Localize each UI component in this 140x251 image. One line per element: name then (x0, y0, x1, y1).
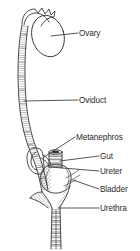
label-metanephros: Metanephros (76, 133, 123, 142)
ostium-infundibulum (22, 8, 55, 26)
label-ovary: Ovary (79, 29, 100, 38)
urogenital-diagram (0, 0, 140, 251)
label-oviduct: Oviduct (79, 96, 106, 105)
oviduct-leader (24, 100, 78, 101)
bladder-sac (41, 164, 80, 193)
label-bladder: Bladder (100, 185, 128, 194)
gut-leader (60, 156, 99, 161)
leader-lines (24, 33, 99, 208)
anatomy-figure: Ovary Oviduct Metanephros Gut Ureter Bla… (0, 0, 140, 251)
label-ureter: Ureter (100, 167, 122, 176)
bladder-leader (73, 180, 99, 189)
label-gut: Gut (100, 152, 113, 161)
label-urethra: Urethra (100, 204, 127, 213)
ureter-leader (50, 167, 99, 171)
urethra-tube (51, 207, 61, 249)
